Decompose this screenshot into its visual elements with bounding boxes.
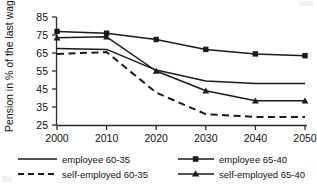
legend-label: self-employed 65-40 [219, 169, 305, 180]
data-point-square-icon [54, 29, 59, 34]
y-tick-label: 25 [36, 119, 48, 131]
y-tick-label: 65 [36, 47, 48, 59]
pension-replacement-rate-chart: Pension in % of the last wage 85 75 65 5… [0, 0, 317, 186]
y-tick-label: 55 [36, 65, 48, 77]
y-tick-label: 45 [36, 83, 48, 95]
data-point-square-icon [253, 51, 258, 56]
legend-label: employee 65-40 [219, 154, 287, 165]
x-tick-label: 2020 [145, 132, 169, 144]
y-axis-title: Pension in % of the last wage [3, 0, 15, 132]
x-tick-label: 2050 [293, 132, 317, 144]
y-tick-label: 75 [36, 29, 48, 41]
legend-label: employee 60-35 [62, 154, 130, 165]
y-tick-label: 35 [36, 101, 48, 113]
data-point-square-icon [302, 53, 307, 58]
chart-svg: Pension in % of the last wage 85 75 65 5… [0, 0, 317, 186]
legend-label: self-employed 60-35 [62, 169, 148, 180]
x-tick-label: 2040 [244, 132, 268, 144]
x-tick-label: 2030 [194, 132, 218, 144]
data-point-square-icon [203, 47, 208, 52]
x-tick-label: 2010 [95, 132, 119, 144]
x-tick-label: 2000 [45, 132, 69, 144]
legend-marker-square-icon [193, 156, 199, 162]
data-point-square-icon [154, 37, 159, 42]
y-tick-label: 85 [36, 11, 48, 23]
